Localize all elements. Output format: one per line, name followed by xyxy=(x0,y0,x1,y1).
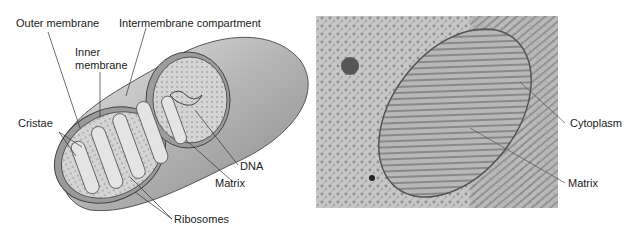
electron-micrograph xyxy=(316,0,562,226)
label-cristae: Cristae xyxy=(18,117,53,129)
label-dna: DNA xyxy=(240,160,263,172)
diagram-canvas xyxy=(0,0,634,233)
label-matrix-right: Matrix xyxy=(568,177,598,189)
label-ribosomes: Ribosomes xyxy=(174,213,229,225)
label-outer-membrane: Outer membrane xyxy=(16,17,99,29)
label-matrix-left: Matrix xyxy=(215,177,245,189)
label-cytoplasm: Cytoplasm xyxy=(570,117,622,129)
label-inner-membrane-line2: membrane xyxy=(75,59,128,71)
label-intermembrane-compartment: Intermembrane compartment xyxy=(119,17,261,29)
label-inner-membrane-line1: Inner xyxy=(75,46,100,58)
